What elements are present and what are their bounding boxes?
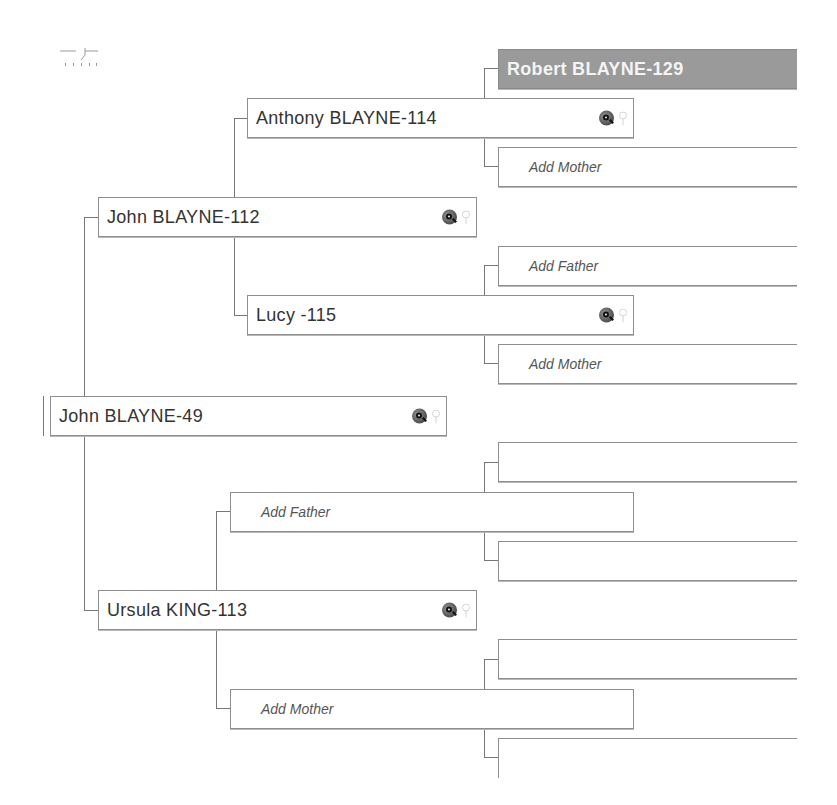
search-icon[interactable]	[412, 409, 427, 424]
connector	[484, 265, 498, 266]
connector	[84, 610, 98, 611]
person-box-paternal-grandfather[interactable]: Anthony BLAYNE-114	[247, 98, 634, 138]
connector	[484, 659, 498, 660]
search-icon[interactable]	[442, 210, 457, 225]
person-name[interactable]: John BLAYNE-49	[51, 406, 203, 427]
connector	[216, 511, 230, 512]
person-box-paternal-grandmother[interactable]: Lucy -115	[247, 295, 634, 335]
connector	[484, 166, 498, 167]
connector	[484, 462, 498, 463]
empty-ancestor-slot	[498, 541, 797, 581]
connector	[234, 118, 247, 119]
add-mother-label[interactable]: Add Mother	[499, 356, 601, 372]
root-bracket	[43, 396, 44, 436]
connector	[484, 560, 498, 561]
person-box-mother[interactable]: Ursula KING-113	[98, 590, 477, 630]
person-box-father[interactable]: John BLAYNE-112	[98, 197, 477, 237]
search-icon[interactable]	[599, 111, 614, 126]
empty-ancestor-slot	[498, 442, 797, 482]
search-icon[interactable]	[442, 603, 457, 618]
add-mother-label[interactable]: Add Mother	[499, 159, 601, 175]
connector	[84, 217, 98, 218]
add-great-grandfather-button[interactable]: Add Father	[498, 246, 797, 286]
connector	[216, 708, 230, 709]
pedigree-view-icon[interactable]	[58, 46, 104, 68]
person-name[interactable]: Anthony BLAYNE-114	[248, 108, 437, 129]
add-mother-label[interactable]: Add Mother	[231, 701, 333, 717]
family-tree-icon[interactable]	[460, 210, 472, 224]
empty-ancestor-slot	[498, 738, 797, 778]
add-great-grandmother-button[interactable]: Add Mother	[498, 344, 797, 384]
add-maternal-grandfather-button[interactable]: Add Father	[230, 492, 634, 532]
empty-ancestor-slot	[498, 639, 797, 679]
family-tree-icon[interactable]	[430, 409, 442, 423]
family-tree-icon[interactable]	[617, 111, 629, 125]
person-name[interactable]: Ursula KING-113	[99, 600, 247, 621]
connector	[234, 315, 247, 316]
add-father-label[interactable]: Add Father	[231, 504, 330, 520]
add-maternal-grandmother-button[interactable]: Add Mother	[230, 689, 634, 729]
person-box-great-grandfather-highlighted[interactable]: Robert BLAYNE-129	[498, 49, 797, 89]
person-name[interactable]: Lucy -115	[248, 305, 336, 326]
search-icon[interactable]	[599, 308, 614, 323]
connector	[484, 363, 498, 364]
family-tree-icon[interactable]	[460, 603, 472, 617]
add-father-label[interactable]: Add Father	[499, 258, 598, 274]
connector	[484, 68, 498, 69]
person-box-root[interactable]: John BLAYNE-49	[50, 396, 447, 436]
person-name[interactable]: Robert BLAYNE-129	[499, 59, 683, 80]
family-tree-icon[interactable]	[617, 308, 629, 322]
connector	[484, 757, 498, 758]
add-great-grandmother-button[interactable]: Add Mother	[498, 147, 797, 187]
person-name[interactable]: John BLAYNE-112	[99, 207, 260, 228]
